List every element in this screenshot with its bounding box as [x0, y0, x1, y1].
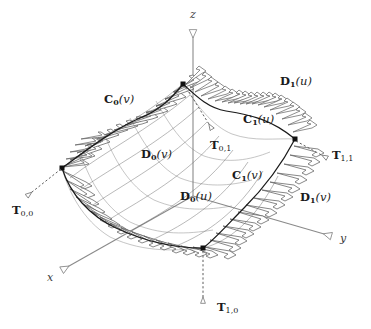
derivative-field-D0u — [63, 171, 218, 258]
twist-vectors — [27, 92, 327, 303]
boundary-label-C1v: C1(v) — [232, 170, 262, 182]
derivative-label-D0u: D0(u) — [180, 191, 212, 203]
derivative-label-D1v: D1(v) — [300, 192, 331, 204]
coordinate-axes — [62, 30, 331, 270]
twist-label-T10: T1,0 — [217, 302, 238, 315]
boundary-label-C0v-arg: (v) — [119, 92, 134, 106]
corner-point-u1v0 — [201, 246, 206, 251]
boundary-label-C0v: C0(v) — [104, 94, 134, 106]
axis-label-z: z — [190, 9, 196, 20]
boundary-label-C1u: C1(u) — [243, 114, 274, 126]
coons-patch-figure: x y z C0(v) C1(u) C1(v) D0(v) D1(u) D0(u… — [0, 0, 371, 329]
derivative-label-D1v-arg: (v) — [316, 190, 331, 204]
twist-label-T00-sub: 0,0 — [21, 209, 34, 218]
twist-label-T01: T0,1 — [210, 140, 231, 153]
twist-vector-T00-leader — [27, 169, 61, 196]
twist-vector-T11-leader — [296, 141, 327, 158]
axis-label-y: y — [340, 233, 346, 244]
derivative-label-D1u: D1(u) — [280, 76, 312, 88]
derivative-label-D1u-arg: (u) — [296, 74, 312, 88]
corner-points — [60, 82, 298, 251]
figure-canvas — [0, 0, 371, 329]
twist-label-T11: T1,1 — [332, 150, 353, 163]
twist-label-T10-base: T — [217, 300, 226, 314]
corner-point-u1v1 — [293, 137, 298, 142]
derivative-label-D1v-base: D — [300, 190, 310, 204]
derivative-label-D0v-base: D — [141, 147, 151, 161]
derivative-label-D0u-arg: (u) — [196, 189, 212, 203]
twist-label-T01-sub: 0,1 — [219, 144, 232, 153]
boundary-label-C1v-arg: (v) — [247, 168, 262, 182]
twist-label-T00-base: T — [12, 203, 21, 217]
twist-label-T00: T0,0 — [12, 205, 33, 218]
derivative-label-D1u-base: D — [280, 74, 290, 88]
twist-label-T11-base: T — [332, 148, 341, 162]
derivative-label-D0u-base: D — [180, 189, 190, 203]
derivative-label-D0v: D0(v) — [141, 149, 172, 161]
twist-label-T11-sub: 1,1 — [341, 154, 354, 163]
derivative-label-D0v-arg: (v) — [157, 147, 172, 161]
twist-label-T10-sub: 1,0 — [226, 306, 239, 315]
surface-cross-ruling-lines — [62, 84, 295, 250]
boundary-label-C1u-arg: (u) — [258, 112, 274, 126]
axis-label-x: x — [47, 272, 53, 283]
corner-point-u0v1 — [181, 82, 186, 87]
twist-label-T01-base: T — [210, 138, 219, 152]
boundary-label-C1u-base: C — [243, 112, 252, 126]
boundary-label-C0v-base: C — [104, 92, 113, 106]
boundary-label-C1v-base: C — [232, 168, 241, 182]
